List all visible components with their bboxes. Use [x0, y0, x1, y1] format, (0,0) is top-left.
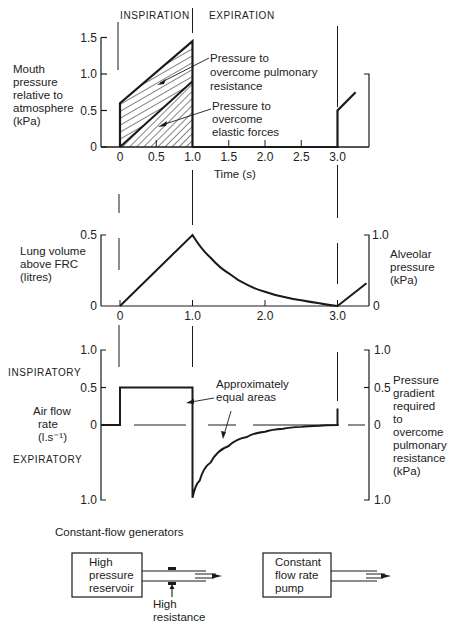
y-tick-label: 1.0: [80, 343, 97, 357]
y-axis-label-right: Alveolarpressure(kPa): [390, 248, 435, 286]
annotation-line: Approximately: [216, 378, 289, 390]
y-axis-label-right-line: gradient: [393, 387, 435, 399]
y-axis-line: [101, 235, 106, 306]
phase-label-inspiration: INSPIRATION: [120, 10, 190, 21]
y-tick-label: 0: [90, 299, 97, 313]
y-tick-label: 0.5: [80, 228, 97, 242]
y-axis-label-right-line: (kPa): [393, 465, 421, 477]
annotation-line: overcome: [212, 113, 263, 125]
svg-text:Pressure to: Pressure to: [210, 52, 269, 64]
y-tick-label: 1.5: [80, 31, 97, 45]
y-axis-label-line: Mouth: [13, 63, 45, 75]
direction-label-inspiratory: INSPIRATORY: [8, 367, 81, 378]
air-flow-chart: INSPIRATORY EXPIRATORY Air flowrate(l.s⁻…: [8, 325, 447, 507]
y-axis-label-right: Pressuregradientrequiredtoovercomepulmon…: [393, 374, 447, 477]
lung-volume-chart: Lung volumeabove FRC(litres) Alveolarpre…: [20, 165, 435, 323]
annotation-line: overcome pulmonary: [210, 66, 318, 78]
y-axis-label-line: (l.s⁻¹): [38, 431, 67, 443]
y-axis-label: Lung volumeabove FRC(litres): [20, 245, 86, 283]
flow-arrow-icon: [366, 574, 391, 579]
y-tick-label: 1.0: [80, 493, 97, 507]
annotation-line: Pressure to: [210, 52, 269, 64]
arrowhead-icon: [186, 399, 194, 404]
resistance-label-line: resistance: [153, 611, 205, 623]
y-tick-label-right: 1.0: [372, 228, 389, 242]
y-axis-label-right-line: Pressure: [393, 374, 439, 386]
y-tick-label-right: 0: [373, 299, 380, 313]
y-axis-label-line: above FRC: [20, 258, 78, 270]
y-axis-label: Mouthpressurerelative toatmosphere(kPa): [13, 63, 74, 127]
y-axis-label-right-line: (kPa): [390, 274, 418, 286]
annotation-resistance: Pressure to overcome pulmonary resistanc…: [210, 52, 318, 92]
pump-outlet-pipe: [331, 571, 377, 581]
x-tick-label: 0: [117, 309, 124, 323]
pump-label-line: flow rate: [275, 569, 318, 581]
y-axis-label-line: (litres): [20, 271, 52, 283]
svg-text:Pressure to: Pressure to: [212, 100, 271, 112]
axes: 1.00.501.01.00.501.0: [80, 325, 391, 507]
y-tick-label: 0.5: [80, 104, 97, 118]
pump-label-line: pump: [275, 582, 304, 594]
y-axis-label-line: atmosphere: [13, 102, 74, 114]
x-tick-label: 2.0: [257, 150, 274, 164]
y-axis-label-right-line: overcome: [393, 426, 444, 438]
plot-marks: [120, 235, 367, 306]
y-axis-label-line: Air flow: [33, 405, 71, 417]
direction-label-expiratory: EXPIRATORY: [13, 454, 82, 465]
y-tick-label-right: 1.0: [374, 493, 391, 507]
y-tick-label-right: 0.5: [374, 381, 391, 395]
air-flow-line: [101, 388, 338, 498]
svg-text:equal areas: equal areas: [216, 391, 276, 403]
right-bracket: [364, 74, 369, 147]
annotation-line: equal areas: [216, 391, 276, 403]
x-tick-label: 3.0: [329, 150, 346, 164]
svg-text:Approximately: Approximately: [216, 378, 289, 390]
resistance-constriction-icon: [168, 567, 176, 585]
x-tick-label: 1.0: [184, 309, 201, 323]
y-tick-label-right: 1.0: [374, 343, 391, 357]
x-tick-label: 0.5: [148, 150, 165, 164]
reservoir-label-line: High: [89, 556, 113, 568]
svg-text:overcome: overcome: [212, 113, 263, 125]
annotation-pointer: [224, 411, 231, 435]
annotation-line: resistance: [210, 80, 262, 92]
y-axis-label-right-line: pulmonary: [393, 439, 447, 451]
y-axis-label-line: pressure: [13, 76, 58, 88]
y-tick-label: 0.5: [80, 381, 97, 395]
y-axis-label-line: relative to: [13, 89, 63, 101]
x-tick-label: 2.0: [257, 309, 274, 323]
x-tick-label: 0: [117, 150, 124, 164]
y-tick-label: 1.0: [80, 67, 97, 81]
y-axis-label-right-line: pressure: [390, 261, 435, 273]
arrowhead-icon: [221, 431, 226, 439]
annotation-elastic: Pressure to overcome elastic forces: [212, 100, 279, 138]
annotation-equal-areas: Approximately equal areas: [216, 378, 289, 403]
y-tick-label-right: 0: [374, 418, 381, 432]
y-axis-label-right-line: required: [393, 400, 435, 412]
svg-text:overcome pulmonary: overcome pulmonary: [210, 66, 318, 78]
figure-canvas: INSPIRATION EXPIRATION Mouthpressurerela…: [0, 0, 466, 627]
resistance-label-line: High: [153, 598, 177, 610]
reservoir-label-line: pressure: [89, 569, 134, 581]
x-tick-label: 1.0: [184, 150, 201, 164]
y-tick-label: 0: [90, 140, 97, 154]
reservoir-outlet-pipe: [142, 571, 206, 581]
svg-text:resistance: resistance: [210, 80, 262, 92]
resistance-pointer-arrow: [170, 584, 175, 597]
plot-marks: [101, 388, 338, 498]
y-tick-label: 0: [90, 418, 97, 432]
pump-label-line: Constant: [275, 556, 322, 568]
y-axis-label-line: Lung volume: [20, 245, 86, 257]
lung-volume-line: [120, 235, 367, 306]
x-tick-label: 1.5: [220, 150, 237, 164]
annotation-pointer: [191, 398, 214, 402]
y-axis-label: Air flowrate(l.s⁻¹): [33, 405, 71, 443]
svg-text:elastic forces: elastic forces: [212, 126, 279, 138]
y-axis-label-right-line: Alveolar: [390, 248, 432, 260]
x-axis-label: Time (s): [214, 168, 256, 180]
mouth-pressure-chart: INSPIRATION EXPIRATION Mouthpressurerela…: [13, 8, 369, 180]
x-tick-label: 3.0: [329, 309, 346, 323]
constant-flow-diagram: Constant-flow generators High pressure r…: [55, 526, 391, 623]
y-axis-label-line: (kPa): [13, 115, 41, 127]
x-tick-label: 2.5: [293, 150, 310, 164]
